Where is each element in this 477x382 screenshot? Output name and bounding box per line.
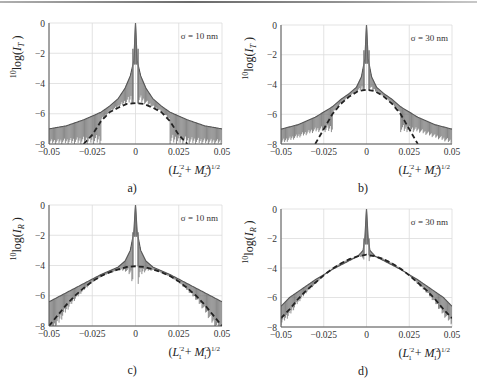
panel-label: c)	[127, 363, 136, 377]
x-tick-label: −0.025	[310, 330, 337, 340]
x-tick-label: 0.025	[399, 330, 421, 340]
y-axis-label: 10log(IT )	[241, 37, 258, 80]
chart-panel-c: −0.05−0.02500.0250.050−2−4−6−8σ = 10 nm1…	[9, 201, 231, 378]
x-tick-label: 0.025	[168, 147, 190, 157]
y-tick-label: −2	[35, 231, 45, 241]
x-axis-label: (L′22 + M′22)1/2	[169, 163, 221, 179]
y-tick-label: 0	[40, 201, 45, 211]
x-tick-label: 0.025	[399, 147, 421, 157]
sigma-annotation: σ = 10 nm	[181, 213, 218, 223]
y-tick-label: −6	[35, 291, 45, 301]
x-axis-label: (L′21 + M′21)1/2	[169, 345, 221, 361]
y-tick-label: 0	[272, 205, 277, 215]
x-tick-label: −0.025	[310, 147, 337, 157]
y-axis-label: 10log(IT )	[9, 35, 26, 78]
figure: −0.05−0.02500.0250.050−2−4−6−8σ = 10 nm1…	[0, 0, 477, 382]
central-peak	[365, 209, 368, 244]
y-tick-label: −6	[267, 110, 277, 120]
y-tick-label: −8	[267, 323, 277, 333]
x-tick-label: 0	[364, 330, 369, 340]
y-tick-label: −8	[35, 322, 45, 332]
y-tick-label: −4	[35, 79, 45, 89]
x-tick-label: −0.025	[79, 329, 106, 339]
y-axis-label: 10log(IR )	[241, 220, 258, 263]
central-peak	[365, 25, 368, 64]
chart-panel-a: −0.05−0.02500.0250.050−2−4−6−8σ = 10 nm1…	[9, 19, 231, 196]
y-tick-label: −8	[267, 140, 277, 150]
y-tick-label: −4	[267, 80, 277, 90]
x-tick-label: 0	[133, 147, 138, 157]
sigma-annotation: σ = 30 nm	[411, 33, 448, 43]
panel-label: a)	[127, 181, 136, 195]
x-tick-label: 0	[364, 147, 369, 157]
central-peak	[134, 23, 137, 65]
y-tick-label: −6	[267, 293, 277, 303]
x-tick-label: 0.05	[214, 329, 231, 339]
y-tick-label: 0	[272, 21, 277, 31]
chart-panel-b: −0.05−0.02500.0250.050−2−4−6−8σ = 30 nm1…	[241, 21, 461, 196]
chart-panel-d: −0.05−0.02500.0250.050−2−4−6−8σ = 30 nm1…	[241, 205, 461, 379]
y-tick-label: −2	[267, 50, 277, 60]
x-tick-label: 0	[133, 329, 138, 339]
x-tick-label: 0.05	[444, 147, 461, 157]
y-tick-label: 0	[40, 19, 45, 29]
y-axis-label: 10log(IR )	[9, 217, 26, 260]
panel-label: d)	[358, 364, 368, 378]
x-tick-label: 0.05	[444, 330, 461, 340]
x-tick-label: −0.025	[79, 147, 106, 157]
central-peak	[134, 205, 137, 237]
y-tick-label: −8	[35, 140, 45, 150]
panel-label: b)	[358, 181, 368, 195]
x-axis-label: (L′21 + M′21)1/2	[399, 346, 451, 362]
x-axis-label: (L′22 + M′22)1/2	[399, 163, 451, 179]
y-tick-label: −4	[35, 261, 45, 271]
y-tick-label: −2	[35, 49, 45, 59]
sigma-annotation: σ = 30 nm	[411, 217, 448, 227]
sigma-annotation: σ = 10 nm	[181, 31, 218, 41]
y-tick-label: −2	[267, 234, 277, 244]
y-tick-label: −4	[267, 264, 277, 274]
y-tick-label: −6	[35, 109, 45, 119]
x-tick-label: 0.025	[168, 329, 190, 339]
x-tick-label: 0.05	[214, 147, 231, 157]
